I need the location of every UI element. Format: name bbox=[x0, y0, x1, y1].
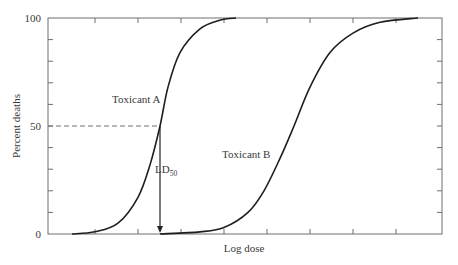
dose-response-chart: 100 50 0 Percent deaths Log dose Toxican… bbox=[0, 0, 458, 265]
x-axis-title: Log dose bbox=[224, 242, 265, 254]
y-tick-label-50: 50 bbox=[30, 120, 42, 132]
y-axis-title: Percent deaths bbox=[10, 94, 22, 158]
y-tick-label-100: 100 bbox=[25, 12, 42, 24]
toxicant-a-label: Toxicant A bbox=[112, 93, 160, 105]
ld50-label: LD50 bbox=[155, 163, 177, 178]
ld50-arrow-head bbox=[157, 226, 163, 233]
toxicant-b-label: Toxicant B bbox=[222, 148, 270, 160]
y-tick-label-0: 0 bbox=[36, 228, 42, 240]
toxicant-b-curve bbox=[160, 18, 418, 234]
